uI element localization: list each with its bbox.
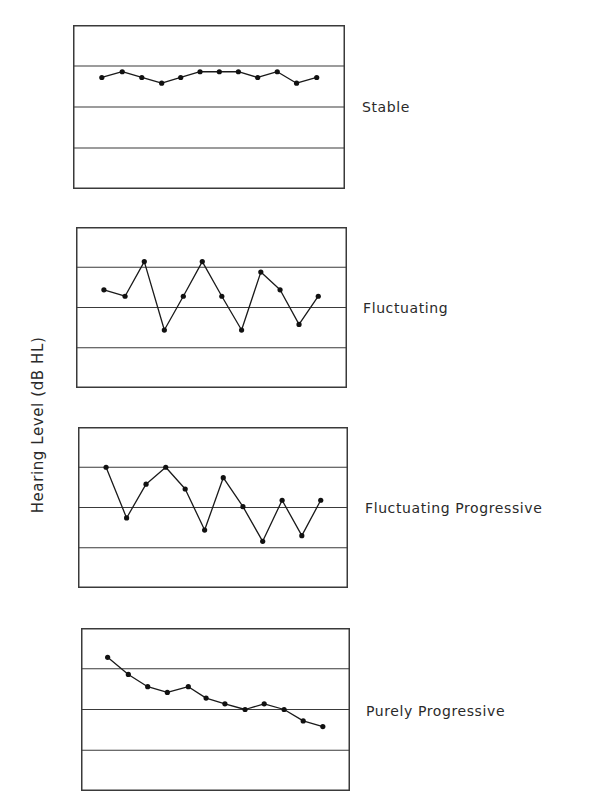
data-point-marker	[221, 475, 226, 480]
data-point-marker	[145, 684, 150, 689]
chart-fluctuating	[76, 227, 347, 388]
data-point-marker	[296, 322, 301, 327]
y-axis-label: Hearing Level (dB HL)	[29, 337, 47, 514]
data-point-marker	[159, 81, 164, 86]
data-point-marker	[162, 327, 167, 332]
data-point-marker	[99, 75, 104, 80]
data-line	[102, 72, 317, 83]
data-line	[106, 467, 321, 541]
data-point-marker	[178, 75, 183, 80]
panel-label-stable: Stable	[362, 99, 410, 115]
chart-stable	[73, 25, 345, 189]
panel-fluctuating	[76, 227, 347, 388]
data-point-marker	[126, 672, 131, 677]
data-point-marker	[197, 69, 202, 74]
data-point-marker	[122, 294, 127, 299]
data-point-marker	[142, 259, 147, 264]
data-point-marker	[217, 69, 222, 74]
data-point-marker	[255, 75, 260, 80]
data-line	[108, 657, 323, 726]
panel-label-fluctuating-progressive: Fluctuating Progressive	[365, 500, 542, 516]
data-point-marker	[316, 294, 321, 299]
data-point-marker	[143, 482, 148, 487]
data-point-marker	[103, 465, 108, 470]
panel-stable	[73, 25, 345, 189]
data-point-marker	[200, 259, 205, 264]
chart-purely-progressive	[81, 628, 350, 791]
data-point-marker	[281, 707, 286, 712]
data-point-marker	[101, 287, 106, 292]
data-point-marker	[186, 684, 191, 689]
data-point-marker	[275, 69, 280, 74]
data-point-marker	[139, 75, 144, 80]
data-point-marker	[262, 701, 267, 706]
data-point-marker	[299, 533, 304, 538]
data-point-marker	[202, 527, 207, 532]
data-point-marker	[165, 690, 170, 695]
data-point-marker	[258, 269, 263, 274]
data-point-marker	[120, 69, 125, 74]
data-point-marker	[236, 69, 241, 74]
data-point-marker	[222, 701, 227, 706]
data-point-marker	[105, 655, 110, 660]
panel-label-fluctuating: Fluctuating	[363, 300, 448, 316]
data-point-marker	[242, 707, 247, 712]
data-point-marker	[219, 294, 224, 299]
data-point-marker	[183, 486, 188, 491]
data-point-marker	[124, 515, 129, 520]
data-point-marker	[260, 539, 265, 544]
data-point-marker	[318, 498, 323, 503]
data-point-marker	[294, 81, 299, 86]
panel-fluctuating-progressive	[78, 427, 348, 588]
data-point-marker	[203, 695, 208, 700]
data-point-marker	[240, 504, 245, 509]
panel-purely-progressive	[81, 628, 350, 791]
data-point-marker	[239, 327, 244, 332]
data-point-marker	[320, 724, 325, 729]
data-point-marker	[181, 294, 186, 299]
data-point-marker	[280, 498, 285, 503]
panel-label-purely-progressive: Purely Progressive	[366, 703, 505, 719]
data-point-marker	[301, 718, 306, 723]
data-line	[104, 262, 318, 330]
chart-fluctuating-progressive	[78, 427, 348, 588]
data-point-marker	[163, 465, 168, 470]
data-point-marker	[314, 75, 319, 80]
data-point-marker	[277, 287, 282, 292]
